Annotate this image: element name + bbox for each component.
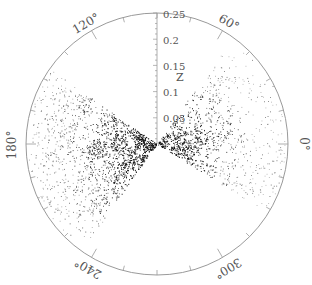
angle-label-120: 120° [70,10,102,37]
redshift-cone-plot: 0.25 0.2 0.15 Z 0.1 0.05 60° 120° 180° 2… [0,0,312,285]
angle-label-60: 60° [216,11,241,34]
tick-label-0.25: 0.25 [163,9,185,20]
angle-label-180: 180° [5,131,19,160]
z-axis-label: Z [176,71,184,84]
angle-label-300: 300° [212,255,244,282]
angle-label-0: 0° [297,137,311,151]
angle-label-240: 240° [72,255,104,282]
radial-axis [153,13,157,144]
tick-label-0.1: 0.1 [163,87,179,98]
tick-label-0.2: 0.2 [163,35,179,46]
tick-label-0.05: 0.05 [163,113,185,124]
